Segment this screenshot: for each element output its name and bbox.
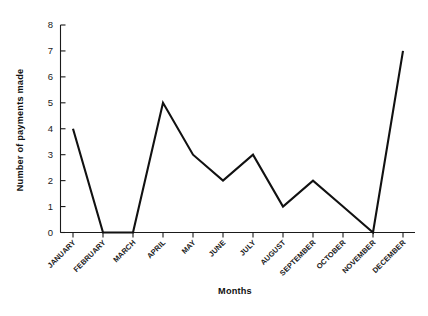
y-axis-tick-label: 1: [48, 201, 53, 212]
x-axis-tick-label: MARCH: [111, 238, 137, 264]
y-axis-tick-label: 5: [48, 97, 53, 108]
y-axis-tick-label: 8: [48, 19, 53, 30]
y-axis-tick-label: 2: [48, 175, 53, 186]
line-chart: 012345678 JANUARYFEBRUARYMARCHAPRILMAYJU…: [0, 0, 428, 316]
x-axis-title: Months: [218, 286, 252, 296]
y-axis-title: Number of payments made: [15, 69, 25, 192]
y-axis-tick-label: 4: [48, 123, 53, 134]
x-axis-tick-label: AUGUST: [259, 238, 288, 267]
y-axis: 012345678: [48, 19, 66, 238]
x-axis-tick-label: FEBRUARY: [72, 238, 108, 274]
x-axis: JANUARYFEBRUARYMARCHAPRILMAYJUNEJULYAUGU…: [45, 233, 415, 278]
y-axis-tick-label: 6: [48, 71, 53, 82]
y-axis-tick-labels: 012345678: [48, 19, 53, 238]
y-axis-tick-label: 3: [48, 149, 53, 160]
x-axis-tick-label: JUNE: [207, 238, 228, 259]
y-axis-tick-label: 7: [48, 45, 53, 56]
y-axis-tick-label: 0: [48, 227, 53, 238]
x-axis-tick-label: MAY: [180, 238, 198, 256]
y-axis-ticks: [61, 25, 66, 233]
series-line-number-of-payments-made: [73, 51, 403, 233]
data-series-group: [73, 51, 403, 233]
x-axis-tick-label: JULY: [238, 238, 258, 258]
x-axis-tick-label: APRIL: [145, 238, 168, 261]
chart-canvas: 012345678 JANUARYFEBRUARYMARCHAPRILMAYJU…: [0, 0, 428, 316]
x-axis-tick-labels: JANUARYFEBRUARYMARCHAPRILMAYJUNEJULYAUGU…: [45, 238, 407, 278]
